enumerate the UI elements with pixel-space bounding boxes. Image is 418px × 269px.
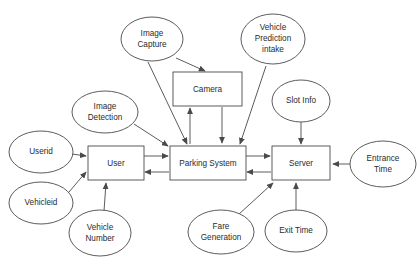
image-detection-ellipse[interactable] — [72, 91, 138, 133]
diagram-svg: Camera Parking System User Server Image … — [0, 0, 418, 269]
slot-info-label: Slot Info — [286, 96, 316, 105]
edge-vehicle-prediction-to-parking-system — [240, 66, 266, 144]
node-vehicle-number[interactable]: Vehicle Number — [69, 210, 131, 256]
diagram-canvas: Camera Parking System User Server Image … — [0, 0, 418, 269]
edge-image-capture-to-camera — [176, 58, 205, 71]
node-vehicle-prediction-intake[interactable]: Vehicle Prediction intake — [241, 14, 305, 64]
edge-vehicleid-to-user — [69, 172, 86, 192]
entrance-time-label-line2: Time — [374, 165, 392, 174]
entrance-time-label-line1: Entrance — [367, 154, 400, 163]
node-fare-generation[interactable]: Fare Generation — [188, 210, 254, 254]
node-exit-time[interactable]: Exit Time — [265, 210, 327, 252]
node-entrance-time[interactable]: Entrance Time — [350, 141, 416, 187]
fare-generation-label-line2: Generation — [201, 233, 242, 242]
node-user[interactable]: User — [88, 146, 144, 180]
vehicle-number-label-line2: Number — [85, 234, 114, 243]
server-label: Server — [289, 159, 313, 168]
node-vehicleid[interactable]: Vehicleid — [9, 182, 73, 224]
node-slot-info[interactable]: Slot Info — [272, 80, 330, 122]
exit-time-label: Exit Time — [279, 226, 313, 235]
image-capture-ellipse[interactable] — [121, 17, 183, 61]
fare-generation-ellipse[interactable] — [188, 210, 254, 254]
vehicle-prediction-label-line3: intake — [262, 45, 284, 54]
node-image-capture[interactable]: Image Capture — [121, 17, 183, 61]
vehicle-prediction-label-line2: Prediction — [255, 34, 292, 43]
camera-label: Camera — [193, 85, 223, 94]
image-capture-label-line2: Capture — [137, 40, 167, 49]
edge-fare-generation-to-server — [238, 183, 273, 215]
node-image-detection[interactable]: Image Detection — [72, 91, 138, 133]
node-userid[interactable]: Userid — [9, 131, 73, 173]
image-detection-label-line2: Detection — [88, 113, 123, 122]
node-server[interactable]: Server — [272, 146, 330, 180]
parking-system-label: Parking System — [179, 159, 237, 168]
vehicle-prediction-label-line1: Vehicle — [260, 23, 287, 32]
attribute-layer: Image Capture Vehicle Prediction intake … — [9, 14, 416, 256]
image-capture-label-line1: Image — [141, 29, 164, 38]
edge-userid-to-user — [72, 154, 86, 156]
vehicleid-label: Vehicleid — [25, 198, 58, 207]
node-parking-system[interactable]: Parking System — [170, 146, 246, 180]
fare-generation-label-line1: Fare — [213, 222, 230, 231]
user-label: User — [107, 159, 125, 168]
vehicle-number-label-line1: Vehicle — [87, 223, 114, 232]
entrance-time-ellipse[interactable] — [350, 141, 416, 187]
node-camera[interactable]: Camera — [173, 72, 242, 106]
edge-vehicle-number-to-user — [104, 183, 106, 211]
vehicle-number-ellipse[interactable] — [69, 210, 131, 256]
userid-label: Userid — [29, 147, 53, 156]
edge-image-detection-to-parking-system — [134, 124, 168, 146]
image-detection-label-line1: Image — [94, 102, 117, 111]
